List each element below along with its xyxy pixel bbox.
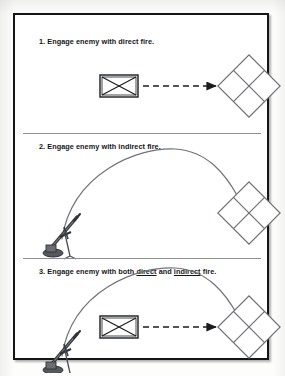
panel-indirect-fire: 2. Engage enemy with indirect fire. bbox=[30, 135, 282, 260]
page-border: 1. Engage enemy with direct fire. bbox=[13, 13, 269, 360]
infantry-unit-symbol bbox=[100, 75, 138, 97]
panel-divider-1 bbox=[23, 133, 261, 134]
mortar-icon bbox=[43, 214, 80, 259]
enemy-diamond-symbol bbox=[218, 296, 280, 358]
indirect-fire-arc bbox=[62, 268, 238, 356]
panel-3-diagram bbox=[30, 260, 282, 373]
enemy-diamond-symbol bbox=[218, 182, 280, 244]
panel-divider-2 bbox=[23, 258, 261, 259]
panel-direct-fire: 1. Engage enemy with direct fire. bbox=[30, 30, 282, 135]
panel-1-diagram bbox=[30, 30, 282, 135]
enemy-diamond-symbol bbox=[218, 55, 280, 117]
page: 1. Engage enemy with direct fire. bbox=[0, 0, 285, 376]
panel-combined-fire: 3. Engage enemy with both direct and ind… bbox=[30, 260, 282, 373]
mortar-icon bbox=[43, 331, 80, 373]
infantry-unit-symbol bbox=[100, 316, 138, 338]
panel-2-diagram bbox=[30, 135, 282, 260]
indirect-fire-arc bbox=[62, 149, 238, 239]
